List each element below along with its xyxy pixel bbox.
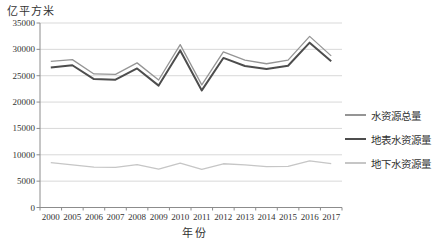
legend-label: 水资源总量 [371,108,421,123]
x-tick-label: 2009 [150,212,169,222]
y-tick-label: 30000 [13,44,36,54]
x-tick-label: 2011 [193,212,211,222]
x-tick-label: 2016 [301,212,320,222]
water-resources-line-chart: 亿平方米 05000100001500020000250003000035000… [0,0,444,246]
legend-item-surface: 地表水资源量 [345,132,431,146]
y-tick-label: 15000 [13,123,36,133]
legend-line-swatch [345,114,366,115]
x-tick-label: 2015 [279,212,298,222]
x-tick-label: 2007 [107,212,126,222]
legend-line-swatch [345,138,366,140]
y-tick-label: 25000 [13,71,36,81]
x-tick-label: 2008 [128,212,147,222]
y-tick-label: 0 [31,203,36,213]
y-tick-label: 20000 [13,97,36,107]
legend-item-ground: 地下水资源量 [345,156,431,170]
series-line-2 [51,161,331,170]
y-tick-label: 10000 [13,150,36,160]
x-tick-label: 2005 [63,212,82,222]
legend: 水资源总量 地表水资源量 地下水资源量 [345,108,431,170]
y-tick-label: 35000 [13,18,36,28]
x-tick-label: 2017 [322,212,341,222]
legend-label: 地下水资源量 [371,156,431,171]
x-tick-label: 2006 [85,212,104,222]
x-tick-label: 2012 [214,212,232,222]
y-tick-label: 5000 [17,176,36,186]
x-axis-title: 年份 [0,224,390,240]
legend-item-total: 水资源总量 [345,108,431,122]
x-tick-label: 2014 [258,212,277,222]
x-tick-label: 2000 [42,212,61,222]
legend-line-swatch [345,162,366,163]
legend-label: 地表水资源量 [371,132,431,147]
x-tick-label: 2013 [236,212,255,222]
x-tick-label: 2010 [171,212,190,222]
